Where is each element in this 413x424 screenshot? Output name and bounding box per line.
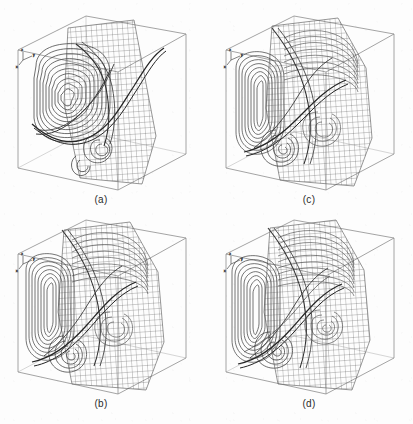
panel-a: z y x bbox=[6, 8, 196, 198]
panel-label-c: (c) bbox=[214, 194, 404, 205]
figure-canvas: z y x bbox=[0, 0, 413, 424]
panel-b: z y x bbox=[6, 212, 196, 402]
panel-c: z y x bbox=[214, 8, 404, 198]
axis-triad: z y x bbox=[16, 48, 35, 70]
mesh-surface bbox=[242, 212, 404, 402]
axis-triad: z y x bbox=[16, 252, 35, 274]
panel-label-b: (b) bbox=[6, 398, 196, 409]
mesh-surface bbox=[36, 212, 196, 402]
panel-a-plot: z y x bbox=[6, 8, 196, 198]
panel-b-plot: z y x bbox=[6, 212, 196, 402]
panel-c-plot: z y x bbox=[214, 8, 404, 198]
mesh-surface bbox=[46, 8, 186, 198]
panel-d-plot: z y x bbox=[214, 212, 404, 402]
panel-label-d: (d) bbox=[214, 398, 404, 409]
mesh-surface bbox=[244, 8, 404, 198]
panel-d: z y x bbox=[214, 212, 404, 402]
axis-triad: z y x bbox=[224, 252, 243, 274]
panel-label-a: (a) bbox=[6, 194, 196, 205]
